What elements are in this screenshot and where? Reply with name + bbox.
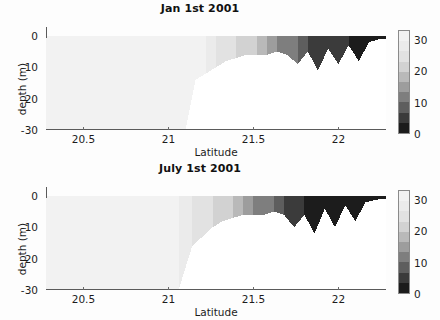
colorbar-segment [399, 222, 409, 232]
heatmap-cell [379, 36, 386, 39]
heatmap-cell [318, 36, 328, 70]
colorbar-segment [399, 232, 409, 242]
heatmap-cell [100, 36, 151, 130]
heatmap-cell [308, 36, 318, 70]
x-tick-label: 21.5 [242, 133, 265, 145]
colorbar-segment [399, 262, 409, 272]
colorbar-tick-label: 10 [414, 97, 427, 109]
heatmap-cell [202, 196, 212, 237]
colorbar-tick-label: 20 [414, 225, 427, 237]
heatmap-cell [287, 36, 297, 64]
panel-jan: Jan 1st 2001 0-10-20-30 Latitude depth (… [0, 0, 440, 160]
heatmap-cell [264, 196, 274, 215]
colorbar-segment [399, 41, 409, 51]
heatmap-cell [369, 36, 379, 42]
heatmap-cell [243, 196, 253, 215]
colorbar-segment [399, 113, 409, 123]
colorbar-segment [399, 273, 409, 283]
x-tick-label: 21.5 [242, 293, 265, 305]
heatmap-cell [379, 196, 386, 199]
heatmap-cell [216, 36, 226, 67]
heatmap-cell [236, 36, 246, 58]
colorbar-segment [399, 51, 409, 61]
heatmap-cell [100, 196, 151, 290]
heatmap-cell [267, 36, 277, 55]
colorbar-segment [399, 72, 409, 82]
heatmap-cell [328, 36, 338, 64]
colorbar-tick-label: 30 [414, 34, 427, 46]
colorbar-tick-label: 0 [414, 128, 421, 140]
heatmap-cell [345, 196, 355, 221]
heatmap-cell [257, 36, 267, 55]
heatmap-cell [304, 196, 314, 234]
panel-title: Jan 1st 2001 [0, 2, 400, 15]
heatmap-jan [46, 36, 386, 130]
heatmap-cell [325, 196, 335, 227]
y-axis-title: depth (m) [16, 41, 28, 137]
colorbar-segment [399, 252, 409, 262]
x-axis-title: Latitude [46, 146, 386, 158]
colorbar-tick-label: 0 [414, 288, 421, 300]
heatmap-cell [253, 196, 263, 215]
x-tick-label: 21 [162, 133, 175, 145]
figure: Jan 1st 2001 0-10-20-30 Latitude depth (… [0, 0, 440, 320]
heatmap-july [46, 196, 386, 290]
heatmap-cell [294, 196, 304, 227]
colorbar-tick-label: 20 [414, 65, 427, 77]
heatmap-cell [359, 36, 369, 61]
heatmap-cell [151, 36, 185, 130]
heatmap-cell [277, 36, 287, 55]
plot-area-july [46, 196, 386, 290]
heatmap-cell [338, 36, 348, 64]
colorbar-jan [398, 30, 410, 134]
colorbar-segment [399, 283, 409, 293]
x-axis-title: Latitude [46, 306, 386, 318]
colorbar-segment [399, 92, 409, 102]
heatmap-cell [284, 196, 294, 227]
heatmap-cell [179, 196, 193, 290]
colorbar-segment [399, 242, 409, 252]
colorbar-segment [399, 201, 409, 211]
x-tick-label: 21 [162, 293, 175, 305]
heatmap-cell [335, 196, 345, 227]
y-tick-label: 0 [31, 30, 38, 42]
colorbar-segment [399, 191, 409, 201]
heatmap-cell [192, 196, 202, 246]
heatmap-cell [247, 36, 257, 55]
heatmap-cell [355, 196, 365, 221]
heatmap-cell [298, 36, 308, 64]
colorbar-tick-label: 30 [414, 194, 427, 206]
colorbar-segment [399, 211, 409, 221]
heatmap-cell [349, 36, 359, 61]
colorbar-segment [399, 62, 409, 72]
colorbar-july [398, 190, 410, 294]
heatmap-cell [206, 36, 216, 74]
y-axis-title: depth (m) [16, 201, 28, 297]
x-tick-label: 20.5 [72, 133, 95, 145]
colorbar-segment [399, 82, 409, 92]
heatmap-cell [151, 196, 178, 290]
colorbar-tick-label: 10 [414, 257, 427, 269]
panel-july: July 1st 2001 0-10-20-30 Latitude depth … [0, 160, 440, 320]
heatmap-cell [185, 36, 195, 130]
heatmap-cell [46, 196, 100, 290]
x-tick-label: 22 [332, 293, 345, 305]
y-tick-label: 0 [31, 190, 38, 202]
heatmap-cell [226, 36, 236, 61]
heatmap-cell [366, 196, 380, 202]
heatmap-cell [233, 196, 243, 218]
x-tick-label: 22 [332, 133, 345, 145]
heatmap-cell [274, 196, 284, 215]
plot-area-jan [46, 36, 386, 130]
heatmap-cell [315, 196, 325, 234]
colorbar-segment [399, 102, 409, 112]
heatmap-cell [196, 36, 206, 80]
panel-title: July 1st 2001 [0, 162, 400, 175]
colorbar-segment [399, 31, 409, 41]
heatmap-cell [46, 36, 100, 130]
colorbar-segment [399, 123, 409, 133]
heatmap-cell [213, 196, 223, 227]
x-tick-label: 20.5 [72, 293, 95, 305]
heatmap-cell [223, 196, 233, 221]
